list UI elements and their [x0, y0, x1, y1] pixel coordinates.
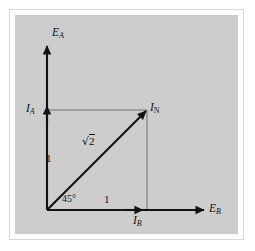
vector-diagram-canvas	[0, 0, 255, 251]
figure-root: EA EB IA IB IN 1 1 √2 45°	[0, 0, 255, 251]
vector-in	[47, 111, 146, 210]
